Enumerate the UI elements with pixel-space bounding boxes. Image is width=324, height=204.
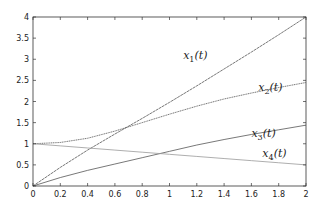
series-label-2: x2(t) — [258, 81, 282, 96]
x-tick-label: 1 — [167, 190, 172, 199]
x-tick-label: 1.4 — [218, 190, 231, 199]
series-label-1: x1(t) — [183, 49, 207, 64]
series-label-3: x3(t) — [251, 127, 275, 142]
y-tick-label: 2.5 — [16, 76, 29, 85]
x-tick-label: 1.6 — [245, 190, 258, 199]
series-labels: x1(t)x2(t)x3(t)x4(t) — [183, 49, 286, 162]
x-tick-label: 0 — [30, 190, 35, 199]
y-tick-label: 1.5 — [16, 119, 29, 128]
axes: 00.20.40.60.811.21.41.61.8200.511.522.53… — [16, 13, 308, 199]
y-tick-label: 0.5 — [16, 161, 29, 170]
x-tick-label: 1.2 — [190, 190, 203, 199]
plot-frame — [33, 17, 306, 186]
y-tick-label: 1 — [24, 140, 29, 149]
y-tick-label: 0 — [24, 182, 29, 191]
x-tick-label: 2 — [303, 190, 308, 199]
y-tick-label: 2 — [24, 98, 29, 107]
plot-lines — [33, 17, 306, 186]
x-tick-label: 0.4 — [81, 190, 94, 199]
line-chart: 00.20.40.60.811.21.41.61.8200.511.522.53… — [0, 0, 324, 204]
x-tick-label: 1.8 — [272, 190, 285, 199]
x-tick-label: 0.2 — [54, 190, 67, 199]
series-line-1 — [33, 17, 306, 186]
y-tick-label: 3 — [24, 55, 29, 64]
x-tick-label: 0.6 — [109, 190, 122, 199]
y-tick-label: 3.5 — [16, 34, 29, 43]
y-tick-label: 4 — [24, 13, 29, 22]
x-tick-label: 0.8 — [136, 190, 149, 199]
series-label-4: x4(t) — [262, 147, 286, 162]
